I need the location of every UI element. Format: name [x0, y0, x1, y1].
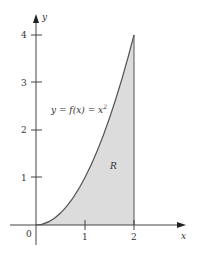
function-label: y = f(x) = x2 — [50, 103, 107, 115]
y-tick-label-1: 1 — [21, 173, 27, 183]
y-tick-label-3: 3 — [21, 78, 27, 88]
x-axis-arrow-icon — [177, 222, 186, 228]
y-tick-label-4: 4 — [21, 30, 27, 40]
y-axis-arrow-icon — [33, 14, 39, 23]
x-tick-label-2: 2 — [131, 232, 137, 242]
x-axis-label: x — [181, 231, 186, 241]
y-axis-label: y — [41, 12, 48, 22]
origin-label: 0 — [26, 229, 32, 239]
y-tick-label-2: 2 — [21, 125, 27, 135]
x-tick-label-1: 1 — [82, 232, 88, 242]
region-r-fill — [36, 35, 134, 225]
graph: 4 3 2 1 0 1 2 x y R y = f(x) = x2 — [0, 0, 200, 255]
region-label: R — [109, 161, 117, 171]
